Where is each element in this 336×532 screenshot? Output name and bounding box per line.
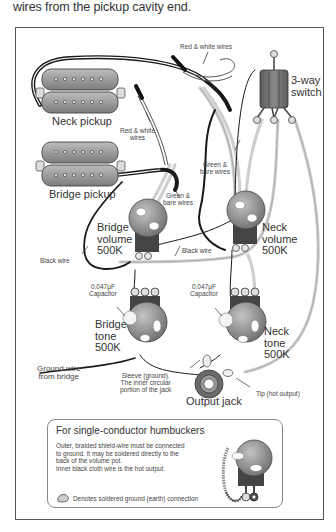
red-white-wires-left-label: Red & white wires	[120, 128, 155, 142]
sleeve-label: Sleeve (ground). The inner circular port…	[120, 373, 171, 393]
neck-pickup	[36, 69, 125, 113]
neck-tone-label: Neck tone 500K	[264, 326, 290, 361]
bridge-pickup	[36, 142, 125, 186]
switch-label: 3-way switch	[291, 75, 322, 98]
green-bare-wires-right-label: Green & bare wires	[200, 162, 230, 176]
bridge-tone-label: Bridge tone 500K	[95, 319, 127, 354]
output-jack	[195, 355, 233, 398]
black-wire-right-label: Black wire	[182, 248, 212, 255]
wire-sleeve-left	[136, 86, 142, 98]
legend-text: Denotes soldered ground (earth) connecti…	[73, 495, 198, 502]
note-title: For single-conductor humbuckers	[56, 425, 204, 436]
pot-shield-illustration	[216, 430, 276, 506]
output-jack-label: Output jack	[186, 396, 242, 408]
neck-volume-label: Neck volume 500K	[262, 222, 297, 257]
neck-tone-pot	[219, 288, 266, 343]
legend: Denotes soldered ground (earth) connecti…	[56, 493, 198, 503]
bridge-volume-pot	[129, 199, 167, 260]
ground-wire-label: Ground wire from bridge	[37, 365, 81, 382]
capacitor-left-label: 0.047μF Capacitor	[89, 284, 117, 298]
bridge-volume-label: Bridge volume 500K	[97, 222, 132, 257]
red-white-wires-top-label: Red & white wires	[180, 44, 232, 51]
solder-blob-icon	[56, 493, 70, 503]
neck-pickup-label: Neck pickup	[52, 116, 112, 128]
three-way-switch	[254, 51, 296, 124]
black-wire-left-label: Black wire	[40, 258, 70, 265]
bridge-tone-pot	[123, 288, 167, 342]
tip-label: Tip (hot output)	[256, 391, 300, 398]
capacitor-right-label: 0.047μF Capacitor	[190, 284, 218, 298]
bridge-pickup-label: Bridge pickup	[49, 189, 116, 201]
note-body: Outer, braided shield-wire must be conne…	[56, 442, 206, 473]
green-bare-wires-left-label: Green & bare wires	[163, 193, 193, 207]
single-conductor-note: For single-conductor humbuckers Outer, b…	[47, 419, 283, 508]
neck-volume-pot	[227, 191, 265, 252]
